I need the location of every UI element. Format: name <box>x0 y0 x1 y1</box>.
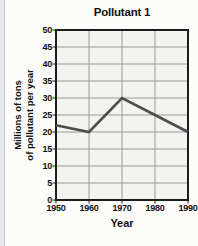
y-axis-label-line1: Millions of tons <box>12 69 24 160</box>
x-tick-label: 1950 <box>40 203 72 213</box>
y-tick-label: 50 <box>32 25 52 35</box>
x-tick-label: 1990 <box>172 203 198 213</box>
pollutant-line-chart: Pollutant 1 Millions of tons of pollutan… <box>0 0 198 246</box>
chart-title: Pollutant 1 <box>56 6 188 18</box>
y-tick-label: 15 <box>32 144 52 154</box>
y-tick-label: 40 <box>32 59 52 69</box>
y-tick-label: 10 <box>32 161 52 171</box>
x-axis-label: Year <box>56 217 188 229</box>
x-tick-label: 1980 <box>139 203 171 213</box>
y-tick-label: 5 <box>32 178 52 188</box>
y-tick-label: 30 <box>32 93 52 103</box>
x-tick-label: 1970 <box>106 203 138 213</box>
y-tick-label: 45 <box>32 42 52 52</box>
y-tick-label: 25 <box>32 110 52 120</box>
plot-area <box>56 30 188 200</box>
x-tick-label: 1960 <box>73 203 105 213</box>
y-tick-label: 20 <box>32 127 52 137</box>
y-tick-label: 35 <box>32 76 52 86</box>
